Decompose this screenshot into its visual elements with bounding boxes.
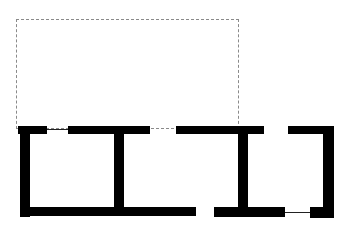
- window-bottom-right: [285, 212, 310, 213]
- window-top-left: [47, 129, 68, 130]
- top-wall-segment-3: [176, 126, 264, 134]
- interior-wall-2: [238, 126, 248, 216]
- right-outer-wall: [323, 126, 334, 218]
- floor-plan: [0, 0, 351, 230]
- bottom-wall-left: [20, 207, 196, 216]
- left-outer-wall: [20, 126, 30, 217]
- bottom-wall-middle: [214, 207, 285, 217]
- bottom-wall-right: [310, 207, 334, 218]
- dashed-outline: [16, 19, 239, 129]
- interior-wall-1: [114, 126, 124, 216]
- top-wall-segment-2: [68, 126, 150, 134]
